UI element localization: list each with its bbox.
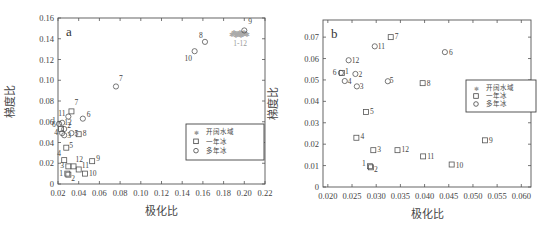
x-tick-label: 0.050: [463, 191, 482, 201]
point-label: 9: [489, 136, 493, 145]
square-marker: [388, 35, 393, 40]
legend-entry: 多年冰: [486, 99, 507, 108]
point-label: 6: [87, 110, 91, 119]
point-label: 5: [69, 141, 73, 150]
point-label: 3: [360, 82, 364, 91]
circle-marker: [442, 50, 447, 55]
point-label: 4: [57, 149, 61, 158]
y-tick-label: 0.04: [39, 138, 55, 148]
x-tick-label: 0.16: [195, 188, 210, 198]
point-label: 5: [370, 107, 374, 116]
legend-star-icon: ✱: [474, 85, 479, 92]
circle-marker: [372, 44, 377, 49]
y-tick-label: 0.16: [39, 13, 54, 23]
scatter-panel-b: 0.0200.0250.0300.0350.0400.0450.0500.055…: [266, 20, 536, 221]
x-tick-label: 0.060: [512, 191, 531, 201]
legend-entry: 开阔水域: [206, 127, 234, 136]
point-label: 2: [71, 174, 75, 183]
point-label: 12: [76, 155, 84, 164]
y-tick-label: 0.12: [39, 55, 54, 65]
square-marker: [421, 154, 426, 159]
x-tick-label: 0.18: [216, 188, 231, 198]
point-label: 8: [427, 79, 431, 88]
point-label: 2: [374, 165, 378, 174]
legend-entry: 一年冰: [206, 137, 227, 146]
point-label: 8: [83, 129, 87, 138]
x-axis-label: 极化比: [145, 204, 178, 218]
point-label: 4: [348, 77, 352, 86]
point-label: 7: [395, 32, 399, 41]
legend: ✱开阔水域一年冰多年冰: [186, 124, 264, 160]
point-label: 6: [449, 48, 453, 57]
square-marker: [82, 171, 87, 176]
circle-marker: [342, 78, 347, 83]
circle-marker: [346, 58, 351, 63]
x-tick-label: 0.08: [113, 188, 128, 198]
y-tick-label: 0.06: [304, 54, 319, 64]
x-tick-label: 0.14: [175, 188, 191, 198]
circle-marker: [353, 71, 358, 76]
square-marker: [420, 81, 425, 86]
x-tick-label: 0.06: [92, 188, 107, 198]
x-tick-label: 0.22: [258, 188, 273, 198]
group-label: 1-12: [233, 39, 247, 48]
circle-marker: [192, 49, 197, 54]
circle-marker: [113, 84, 118, 89]
square-marker: [69, 109, 74, 114]
legend: ✱开阔水域一年冰多年冰: [466, 80, 536, 112]
square-marker: [449, 162, 454, 167]
legend-entry: 开阔水域: [486, 83, 514, 92]
y-tick-label: 0.02: [304, 139, 319, 149]
point-label: 4: [360, 132, 364, 141]
legend-star-icon: ✱: [194, 129, 199, 136]
square-marker: [354, 135, 359, 140]
circle-marker: [202, 39, 207, 44]
point-label: 3: [377, 145, 381, 154]
point-label: 12: [352, 56, 360, 65]
square-marker: [483, 138, 488, 143]
x-tick-label: 0.12: [154, 188, 169, 198]
point-label: 4: [54, 128, 58, 137]
point-label: 10: [89, 169, 97, 178]
square-marker: [76, 167, 81, 172]
point-label: 9: [96, 154, 100, 163]
panel-label: b: [331, 26, 338, 41]
point-label: 11: [58, 109, 65, 118]
x-tick-label: 0.10: [133, 188, 148, 198]
point-label: 8: [199, 31, 203, 40]
x-tick-label: 0.035: [391, 191, 410, 201]
square-marker: [395, 148, 400, 153]
y-tick-label: 0.14: [39, 34, 55, 44]
x-tick-label: 0.040: [415, 191, 434, 201]
point-label: 7: [74, 98, 78, 107]
y-tick-label: 0: [315, 182, 319, 192]
x-tick-label: 0.025: [342, 191, 361, 201]
x-tick-label: 0.045: [439, 191, 458, 201]
y-tick-label: 0.04: [304, 96, 320, 106]
panel-label: a: [66, 24, 72, 39]
square-marker: [66, 164, 71, 169]
y-tick-label: 0.03: [304, 118, 319, 128]
legend-entry: 一年冰: [486, 91, 507, 100]
scatter-panel-a: 0.020.040.060.080.100.120.140.160.180.20…: [3, 13, 272, 218]
square-marker: [371, 148, 376, 153]
point-label: 12: [64, 118, 72, 127]
point-label: 12: [401, 145, 409, 154]
point-label: 10: [456, 161, 464, 170]
y-tick-label: 0.08: [39, 96, 54, 106]
square-marker: [90, 159, 95, 164]
point-label: 2: [358, 70, 362, 79]
y-tick-label: 0: [50, 179, 54, 189]
point-label: 9: [248, 17, 252, 26]
y-axis-label: 梯度比: [266, 87, 280, 120]
point-label: 5: [390, 76, 394, 85]
figure: 0.020.040.060.080.100.120.140.160.180.20…: [0, 0, 545, 227]
square-marker: [64, 145, 69, 150]
y-tick-label: 0.05: [304, 75, 319, 85]
point-label: 6: [333, 68, 337, 77]
y-tick-label: 0.02: [39, 158, 54, 168]
x-axis-label: 极化比: [411, 207, 444, 221]
square-marker: [364, 110, 369, 115]
x-tick-label: 0.020: [318, 191, 337, 201]
y-axis-label: 梯度比: [3, 85, 17, 118]
